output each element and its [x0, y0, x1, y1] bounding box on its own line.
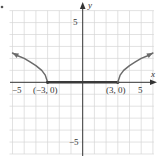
y-tick-label-5: 5: [73, 17, 78, 27]
y-axis-label: y: [87, 0, 92, 10]
graph-figure: x y −5 5 5 −5 (−3, 0) (3, 0): [0, 0, 159, 159]
y-tick-label-neg5: −5: [69, 137, 79, 147]
right-branch-line: [118, 53, 153, 82]
x-axis-arrow-icon: [150, 80, 157, 86]
point-label-left: (−3, 0): [33, 85, 58, 95]
bullet-marker: [1, 6, 4, 9]
point-label-right: (3, 0): [106, 85, 126, 95]
x-axis-label: x: [150, 69, 155, 79]
endpoint-dot: [46, 81, 49, 84]
y-axis-arrow-icon: [80, 2, 86, 9]
left-branch-line: [13, 53, 48, 82]
x-tick-label-neg5: −5: [12, 85, 22, 95]
axes: [10, 2, 157, 156]
x-tick-label-5: 5: [138, 85, 143, 95]
